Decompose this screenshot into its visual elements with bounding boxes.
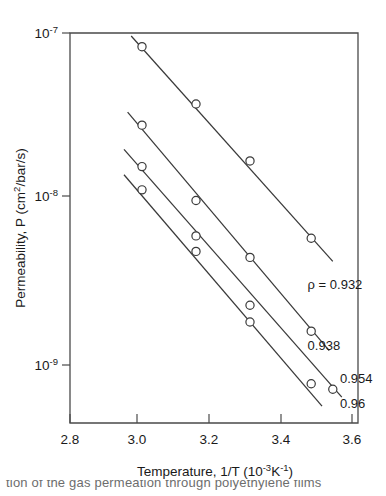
series-0.938 bbox=[128, 112, 330, 350]
y-tick-label: 10-7 bbox=[35, 24, 58, 41]
data-point-marker bbox=[307, 327, 315, 335]
y-tick-labels: 10-7 10-8 10-9 bbox=[35, 24, 58, 373]
series-0.932 bbox=[131, 36, 333, 261]
series-trendline bbox=[128, 112, 330, 350]
series-label-0.938: 0.938 bbox=[308, 338, 341, 353]
plot-frame bbox=[70, 33, 358, 423]
permeability-chart: 2.8 3.0 3.2 3.4 3.6 10-7 10-8 10-9 Perme… bbox=[0, 0, 386, 496]
series-0.96 bbox=[124, 175, 322, 406]
caption-text: tion of the gas permeation through polye… bbox=[6, 480, 322, 490]
series-trendline bbox=[124, 149, 342, 397]
x-tick-label: 3.6 bbox=[343, 432, 362, 447]
x-tick-label: 2.8 bbox=[61, 432, 80, 447]
y-tick-label: 10-9 bbox=[35, 356, 58, 373]
data-point-marker bbox=[192, 232, 200, 240]
data-point-marker bbox=[246, 318, 254, 326]
x-tick-label: 3.0 bbox=[128, 432, 147, 447]
y-tick-label: 10-8 bbox=[35, 187, 58, 204]
data-point-marker bbox=[307, 380, 315, 388]
x-tick-label: 3.4 bbox=[272, 432, 291, 447]
data-point-marker bbox=[246, 157, 254, 165]
series-label-0.954: 0.954 bbox=[340, 371, 373, 386]
series-label-0.932: ρ = 0.932 bbox=[308, 277, 363, 292]
series-0.954 bbox=[124, 149, 342, 397]
data-point-marker bbox=[307, 234, 315, 242]
series-trendline bbox=[131, 36, 333, 261]
permeability-arrhenius-figure: 2.8 3.0 3.2 3.4 3.6 10-7 10-8 10-9 Perme… bbox=[0, 0, 386, 496]
data-point-marker bbox=[138, 43, 146, 51]
series-label-0.96: 0.96 bbox=[340, 396, 365, 411]
data-point-marker bbox=[329, 385, 337, 393]
series-label-layer: ρ = 0.9320.9380.9540.96 bbox=[308, 277, 373, 411]
data-point-marker bbox=[138, 162, 146, 170]
page-caption-strip: tion of the gas permeation through polye… bbox=[0, 480, 386, 496]
data-point-marker bbox=[246, 253, 254, 261]
data-point-marker bbox=[138, 186, 146, 194]
data-point-marker bbox=[246, 301, 254, 309]
x-axis-title: Temperature, 1/T (10-3K-1) bbox=[137, 462, 293, 479]
data-point-marker bbox=[138, 121, 146, 129]
y-axis-ticks bbox=[62, 33, 70, 365]
x-tick-label: 3.2 bbox=[200, 432, 219, 447]
series-trendline bbox=[124, 175, 322, 406]
data-point-marker bbox=[192, 100, 200, 108]
y-axis-title: Permeability, P (cm2/bar/s) bbox=[11, 148, 28, 307]
data-point-marker bbox=[192, 247, 200, 255]
x-tick-labels: 2.8 3.0 3.2 3.4 3.6 bbox=[61, 432, 362, 447]
data-point-marker bbox=[192, 196, 200, 204]
x-axis-ticks bbox=[70, 414, 352, 423]
